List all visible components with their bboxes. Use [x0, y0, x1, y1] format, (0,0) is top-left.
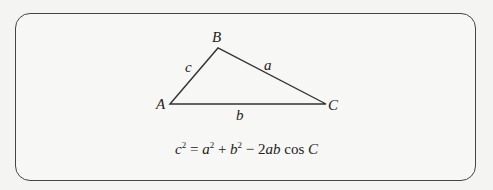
vertex-label-c: C: [328, 98, 338, 113]
vertex-label-a: A: [156, 97, 165, 112]
side-label-a: a: [264, 58, 272, 73]
side-label-b: b: [236, 108, 244, 123]
law-of-cosines-equation: c2 = a2 + b2 − 2ab cos C: [175, 141, 318, 158]
triangle-shape: [0, 0, 493, 190]
side-label-c: c: [185, 60, 192, 75]
vertex-label-b: B: [212, 30, 221, 45]
